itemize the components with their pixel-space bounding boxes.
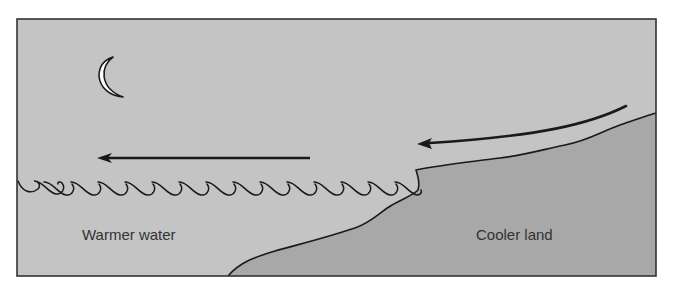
land-breeze-diagram: Warmer water Cooler land: [0, 0, 679, 293]
cooler-land-label: Cooler land: [476, 226, 553, 243]
warmer-water-label: Warmer water: [82, 226, 176, 243]
diagram-canvas: [0, 0, 679, 293]
